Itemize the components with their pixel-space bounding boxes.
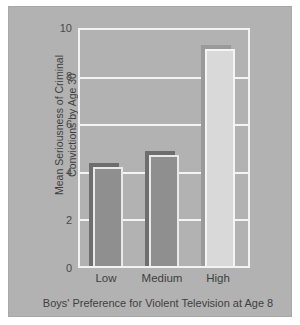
x-axis-tick-labels: Low Medium High: [78, 272, 250, 292]
figure-canvas: Mean Seriousness of Criminal Convictions…: [0, 0, 300, 325]
y-tick-2: 2: [66, 214, 72, 226]
bar-low-face: [93, 167, 122, 266]
bar-low[interactable]: [93, 167, 122, 266]
chart-card: Mean Seriousness of Criminal Convictions…: [8, 6, 292, 317]
bar-medium[interactable]: [149, 155, 178, 266]
bar-high-face: [205, 49, 234, 266]
plot-area: [78, 28, 250, 268]
y-tick-6: 6: [66, 118, 72, 130]
y-axis-tick-labels: 0 2 4 6 8 10: [48, 28, 72, 268]
y-tick-0: 0: [66, 262, 72, 274]
y-tick-10: 10: [60, 22, 72, 34]
y-tick-4: 4: [66, 166, 72, 178]
x-tick-medium: Medium: [142, 272, 183, 284]
bar-medium-face: [149, 155, 178, 266]
x-axis-title: Boys' Preference for Violent Television …: [16, 297, 300, 309]
bar-high[interactable]: [205, 49, 234, 266]
x-tick-low: Low: [95, 272, 116, 284]
y-tick-8: 8: [66, 70, 72, 82]
x-tick-high: High: [206, 272, 230, 284]
